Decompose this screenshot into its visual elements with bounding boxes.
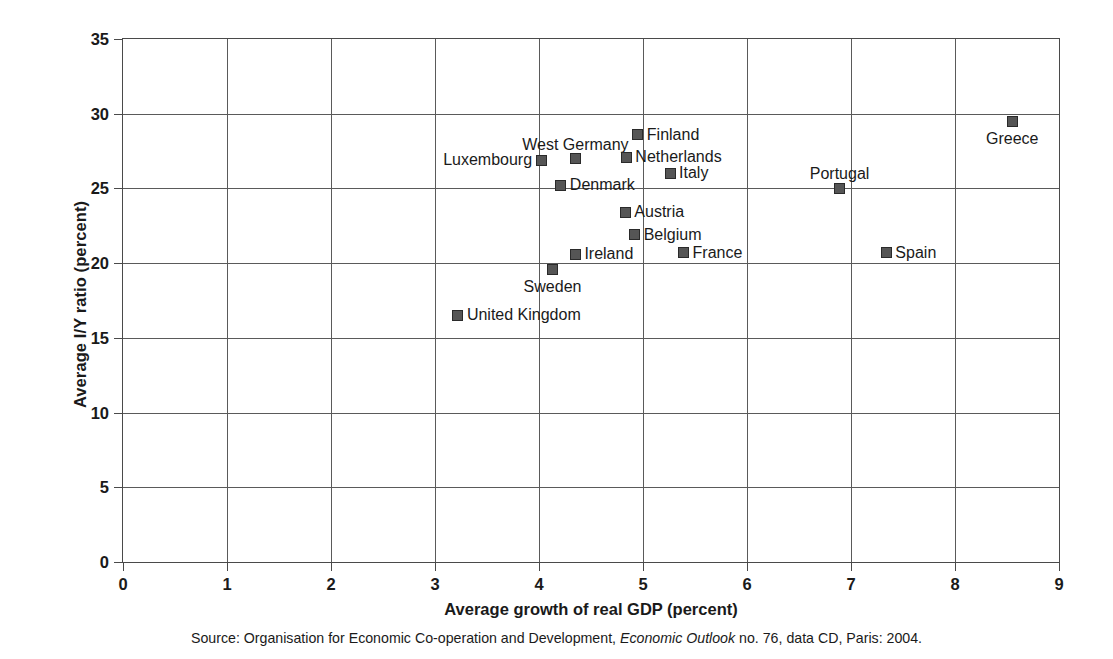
x-gridline [851,39,852,562]
y-axis-tick-label: 20 [91,254,109,273]
data-point [555,180,566,191]
x-axis-tick-label: 4 [534,575,543,594]
y-axis-tick [114,413,123,414]
x-axis-tick [851,562,852,571]
y-axis-tick-label: 15 [91,328,109,347]
x-axis-tick-label: 0 [118,575,127,594]
x-axis-tick [227,562,228,571]
data-point-label: Spain [895,245,936,261]
data-point [632,129,643,140]
x-axis-tick-label: 5 [638,575,647,594]
x-axis-tick-label: 6 [742,575,751,594]
y-gridline [123,413,1059,414]
data-point [620,207,631,218]
x-axis-tick-label: 7 [846,575,855,594]
data-point [452,310,463,321]
x-axis-tick [1059,562,1060,571]
y-axis-tick-label: 35 [91,30,109,49]
x-axis-tick [123,562,124,571]
data-point-label: France [693,245,743,261]
y-axis-tick [114,562,123,563]
data-point-label: Finland [647,127,699,143]
source-suffix: no. 76, data CD, Paris: 2004. [735,630,922,646]
plot-area: 012345678905101520253035LuxembourgWest G… [122,38,1060,563]
data-point [570,153,581,164]
data-point-label: United Kingdom [467,307,581,323]
x-axis-tick-label: 8 [950,575,959,594]
y-axis-tick [114,263,123,264]
x-axis-title: Average growth of real GDP (percent) [122,600,1060,619]
x-axis-tick-label: 1 [222,575,231,594]
x-axis-tick-label: 2 [326,575,335,594]
data-point [1007,116,1018,127]
source-note: Source: Organisation for Economic Co-ope… [0,630,1113,646]
x-axis-tick-label: 9 [1054,575,1063,594]
data-point-label: Ireland [584,246,633,262]
data-point-label: Greece [986,131,1038,147]
y-gridline [123,338,1059,339]
x-axis-tick-label: 3 [430,575,439,594]
x-axis-tick [435,562,436,571]
x-axis-tick [539,562,540,571]
data-point [621,152,632,163]
x-gridline [955,39,956,562]
y-axis-tick-label: 10 [91,403,109,422]
data-point [629,229,640,240]
source-publication-title: Economic Outlook [620,630,735,646]
data-point-label: Austria [634,204,684,220]
y-axis-tick [114,39,123,40]
x-gridline [643,39,644,562]
data-point-label: Portugal [810,166,870,182]
y-axis-title: Average I/Y ratio (percent) [71,45,90,565]
x-axis-tick [643,562,644,571]
x-axis-tick [747,562,748,571]
source-prefix: Source: Organisation for Economic Co-ope… [191,630,620,646]
x-gridline [435,39,436,562]
data-point [665,168,676,179]
data-point [547,264,558,275]
y-gridline [123,487,1059,488]
data-point-label: West Germany [522,137,628,153]
y-axis-tick [114,188,123,189]
data-point [834,183,845,194]
x-gridline [331,39,332,562]
x-gridline [539,39,540,562]
data-point [570,249,581,260]
y-gridline [123,114,1059,115]
y-axis-tick-label: 5 [100,478,109,497]
y-gridline [123,263,1059,264]
data-point-label: Denmark [570,177,635,193]
data-point-label: Luxembourg [443,152,532,168]
data-point [678,247,689,258]
data-point [881,247,892,258]
x-axis-tick [955,562,956,571]
y-axis-tick-label: 25 [91,179,109,198]
y-axis-tick [114,338,123,339]
x-gridline [227,39,228,562]
data-point-label: Sweden [524,279,582,295]
data-point [536,155,547,166]
y-axis-tick-label: 30 [91,104,109,123]
y-axis-tick [114,114,123,115]
data-point-label: Belgium [644,227,702,243]
x-gridline [747,39,748,562]
data-point-label: Netherlands [635,149,721,165]
scatter-chart-figure: Average I/Y ratio (percent) 012345678905… [0,0,1113,659]
x-axis-tick [331,562,332,571]
y-axis-tick-label: 0 [100,553,109,572]
y-axis-tick [114,487,123,488]
data-point-label: Italy [679,165,708,181]
